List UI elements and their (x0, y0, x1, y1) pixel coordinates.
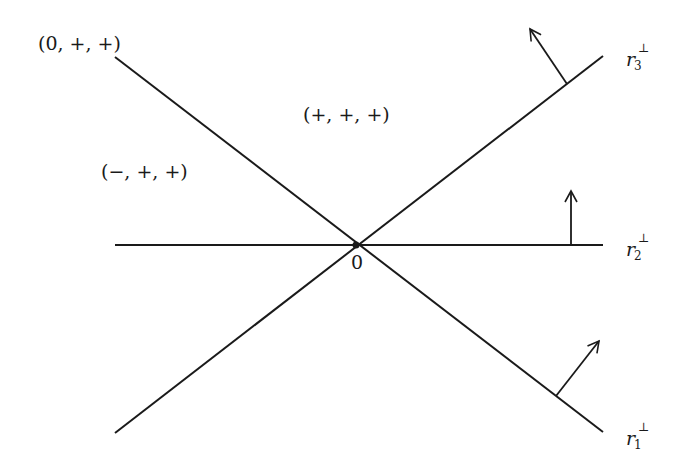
hyperplane-label-r2: r2⊥ (626, 240, 642, 262)
hyperplane-label-r1: r1⊥ (626, 429, 642, 451)
region-label-zero-plus-plus: (0, +, +) (38, 34, 121, 53)
region-label-minus-plus-plus: (−, +, +) (101, 162, 188, 181)
region-label-plus-plus-plus: (+, +, +) (303, 105, 390, 124)
hyperplane-r2-subscript: 2 (634, 249, 642, 263)
origin-point (353, 242, 360, 249)
diagram-canvas (0, 0, 686, 470)
normal-arrow-r3 (530, 29, 567, 84)
hyperplane-label-r3: r3⊥ (626, 50, 642, 72)
hyperplane-r3-superscript: ⊥ (638, 42, 649, 54)
hyperplane-r1-superscript: ⊥ (638, 421, 649, 433)
origin-label: 0 (351, 253, 363, 272)
hyperplane-diagram: (0, +, +) (+, +, +) (−, +, +) 0 r3⊥ r2⊥ … (0, 0, 686, 470)
hyperplane-r3-subscript: 3 (634, 59, 642, 73)
normal-arrow-r1 (556, 341, 599, 396)
hyperplane-r1-subscript: 1 (634, 438, 642, 452)
hyperplane-r2-superscript: ⊥ (638, 232, 649, 244)
